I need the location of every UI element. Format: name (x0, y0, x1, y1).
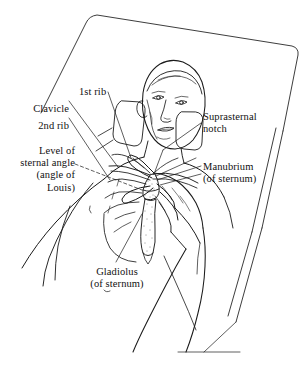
label-manubrium: Manubrium (of sternum) (203, 161, 256, 185)
examiner-hand-and-arm (122, 155, 205, 352)
leader-lines (69, 92, 201, 262)
label-clavicle: Clavicle (0, 103, 69, 115)
anatomy-figure: 1st rib Clavicle 2nd rib Level of sterna… (0, 0, 307, 367)
label-suprasternal-notch: Suprasternal notch (203, 111, 257, 135)
examination-table-outline (41, 15, 298, 352)
label-level-of-sternal-angle: Level of sternal angle (angle of Louis) (0, 145, 75, 194)
label-gladiolus: Gladiolus (of sternum) (72, 266, 162, 290)
patient-head (137, 60, 205, 149)
label-1st-rib: 1st rib (79, 86, 106, 98)
label-2nd-rib: 2nd rib (0, 120, 69, 132)
